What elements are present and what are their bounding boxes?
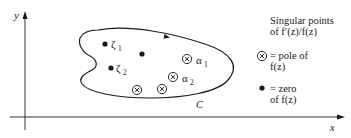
svg-text:2: 2 bbox=[123, 68, 127, 77]
zero-point bbox=[139, 51, 144, 56]
contour-curve bbox=[79, 28, 233, 98]
svg-text:1: 1 bbox=[204, 60, 208, 69]
x-axis bbox=[10, 115, 345, 120]
svg-text:ζ: ζ bbox=[116, 62, 121, 75]
legend-zero-line1: = zero bbox=[270, 83, 350, 94]
pole-point: α 2 bbox=[168, 72, 194, 87]
y-axis bbox=[23, 11, 28, 130]
contour-label: C bbox=[196, 99, 204, 110]
legend-title-line1: Singular points bbox=[270, 15, 350, 26]
pole-circled-x-icon bbox=[182, 54, 191, 63]
pole-circled-x-icon bbox=[168, 72, 177, 81]
legend-pole-circled-x-icon bbox=[257, 51, 266, 60]
pole-point bbox=[157, 84, 166, 93]
y-axis-label: y bbox=[13, 9, 19, 21]
svg-text:ζ: ζ bbox=[111, 38, 116, 51]
pole-circled-x-icon bbox=[132, 85, 141, 94]
legend-pole-line1: = pole of bbox=[270, 50, 350, 61]
svg-text:1: 1 bbox=[118, 44, 122, 53]
zero-point: ζ 2 bbox=[108, 62, 127, 77]
legend: Singular points of f′(z)/f(z) bbox=[270, 15, 350, 37]
legend-zero-dot-icon bbox=[259, 85, 264, 90]
legend-pole-entry: = pole of f(z) bbox=[270, 50, 350, 72]
legend-title-line2: of f′(z)/f(z) bbox=[270, 26, 350, 37]
pole-point: α 1 bbox=[182, 54, 208, 69]
zero-dot-icon bbox=[108, 65, 113, 70]
y-axis-arrow-icon bbox=[23, 11, 28, 19]
zero-dot-icon bbox=[139, 51, 144, 56]
pole-circled-x-icon bbox=[157, 84, 166, 93]
svg-text:α: α bbox=[196, 54, 202, 66]
legend-zero-line2: of f(z) bbox=[270, 94, 350, 105]
zero-dot-icon bbox=[102, 41, 107, 46]
x-axis-arrow-icon bbox=[337, 115, 345, 120]
zero-point: ζ 1 bbox=[102, 38, 122, 53]
contour-direction-arrow-icon bbox=[164, 34, 171, 40]
svg-text:2: 2 bbox=[190, 78, 194, 87]
x-axis-label: x bbox=[329, 122, 335, 133]
pole-point bbox=[132, 85, 141, 94]
legend-zero-entry: = zero of f(z) bbox=[270, 83, 350, 105]
svg-text:α: α bbox=[182, 72, 188, 84]
legend-pole-line2: f(z) bbox=[270, 61, 350, 72]
